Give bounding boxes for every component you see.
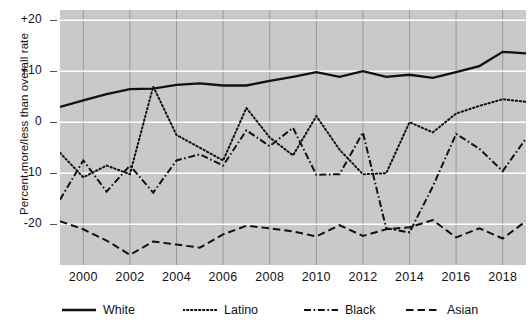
chart-root: Percent more/less than overall rate +20+…: [0, 0, 531, 325]
y-tick-label: +10: [0, 63, 42, 77]
x-tick-label: 2014: [388, 270, 432, 284]
plot-area: [60, 10, 526, 265]
chart-canvas: [60, 10, 526, 265]
y-tick-label: -20: [0, 216, 42, 230]
x-tick-label: 2010: [294, 270, 338, 284]
x-tick-label: 2000: [61, 270, 105, 284]
legend-swatch-dotted: [183, 304, 217, 316]
x-tick-label: 2002: [108, 270, 152, 284]
y-tick-mark: [50, 173, 57, 174]
x-tick-label: 2018: [481, 270, 525, 284]
y-tick-label: -10: [0, 165, 42, 179]
y-tick-mark: [50, 224, 57, 225]
legend-label: Latino: [224, 304, 258, 317]
x-tick-label: 2016: [434, 270, 478, 284]
x-tick-label: 2012: [341, 270, 385, 284]
legend-item-black[interactable]: Black: [304, 300, 376, 320]
legend-swatch-solid: [62, 304, 96, 316]
legend-swatch-dashdot: [304, 304, 338, 316]
y-tick-label: +20: [0, 12, 42, 26]
legend-label: White: [103, 304, 135, 317]
legend-label: Black: [345, 304, 376, 317]
x-tick-label: 2008: [248, 270, 292, 284]
x-tick-label: 2004: [155, 270, 199, 284]
y-tick-mark: [50, 20, 57, 21]
y-tick-label: 0: [0, 114, 42, 128]
legend-item-asian[interactable]: Asian: [406, 300, 478, 320]
x-tick-label: 2006: [201, 270, 245, 284]
legend-label: Asian: [447, 304, 478, 317]
y-tick-mark: [50, 122, 57, 123]
legend-swatch-dashed: [406, 304, 440, 316]
y-tick-mark: [50, 71, 57, 72]
legend-item-latino[interactable]: Latino: [183, 300, 258, 320]
chart-legend: WhiteLatinoBlackAsian: [0, 300, 531, 325]
legend-item-white[interactable]: White: [62, 300, 135, 320]
